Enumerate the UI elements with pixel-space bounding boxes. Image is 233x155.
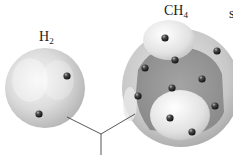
electron-dot (188, 128, 195, 135)
ch4-molecule (122, 20, 233, 147)
h2-molecule (5, 48, 85, 128)
electron-dot (211, 102, 218, 109)
clipped-edge-glyph: s (229, 7, 233, 21)
h2-label-subscript: 2 (49, 36, 54, 46)
electron-dot (198, 75, 205, 82)
electron-dot (166, 114, 173, 121)
ch4-label-subscript: 4 (183, 10, 188, 20)
h2-label-base: H (39, 29, 49, 44)
ch4-label-base: CH (164, 3, 183, 18)
ch4-bottom-lobe (150, 90, 210, 140)
connector-left-line (67, 117, 101, 134)
electron-dot (141, 64, 148, 71)
electron-dot (63, 72, 70, 79)
connector-right-line (101, 114, 135, 134)
diagram-canvas: H2 CH4 s (0, 0, 233, 155)
connector-lines (67, 114, 135, 155)
h2-label: H2 (39, 30, 54, 46)
ch4-left-lobe (123, 87, 137, 121)
electron-dot (213, 47, 220, 54)
electron-dot (168, 84, 175, 91)
electron-dot (134, 92, 141, 99)
ch4-top-lobe (143, 20, 195, 60)
h2-lobe-highlight (42, 60, 74, 100)
electron-dot (161, 34, 168, 41)
electron-dot (35, 110, 42, 117)
electron-dot (171, 56, 178, 63)
ch4-label: CH4 (164, 4, 188, 20)
molecule-diagram (0, 0, 233, 155)
